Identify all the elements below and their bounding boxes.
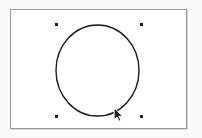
- drawing-canvas[interactable]: [10, 9, 187, 129]
- handle-bottom-right[interactable]: [140, 115, 143, 118]
- mouse-pointer-icon: [113, 107, 125, 123]
- screen: [0, 0, 202, 138]
- handle-bottom-left[interactable]: [55, 115, 58, 118]
- handle-top-right[interactable]: [140, 23, 143, 26]
- handle-top-left[interactable]: [55, 23, 58, 26]
